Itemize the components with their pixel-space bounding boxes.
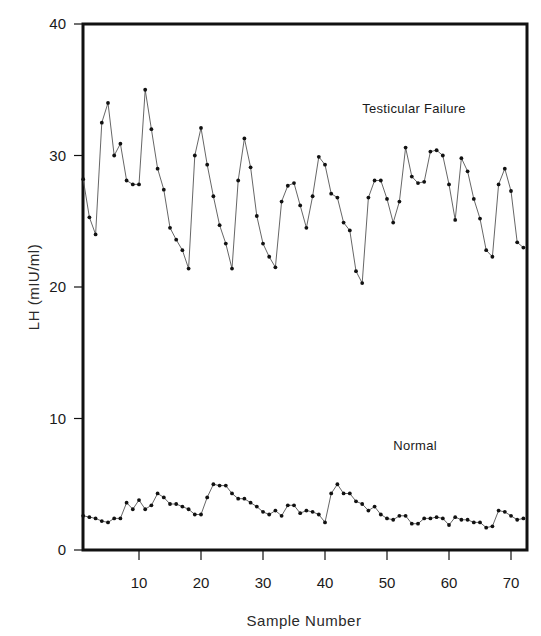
data-point — [410, 522, 414, 526]
data-point — [453, 515, 457, 519]
data-point — [317, 513, 321, 517]
data-point — [187, 507, 191, 511]
series-layer — [81, 88, 525, 530]
series-label-normal: Normal — [393, 438, 437, 453]
data-point — [398, 200, 402, 204]
data-point — [379, 179, 383, 183]
y-tick-label: 40 — [49, 15, 66, 32]
data-point — [199, 513, 203, 517]
x-tick-label: 70 — [503, 574, 520, 591]
data-point — [292, 503, 296, 507]
data-point — [416, 522, 420, 526]
data-point — [143, 88, 147, 92]
data-point — [267, 513, 271, 517]
data-point — [243, 137, 247, 141]
data-point — [205, 496, 209, 500]
data-point — [429, 517, 433, 521]
x-tick-label: 10 — [131, 574, 148, 591]
data-point — [162, 496, 166, 500]
data-point — [311, 510, 315, 514]
data-point — [367, 509, 371, 513]
data-point — [323, 520, 327, 524]
data-point — [522, 246, 526, 250]
lh-line-chart: 010203040 10203040506070 Testicular Fail… — [0, 0, 541, 636]
series-testicular-failure — [81, 88, 525, 285]
data-point — [435, 515, 439, 519]
data-point — [286, 184, 290, 188]
data-point — [187, 267, 191, 271]
x-tick-label: 50 — [379, 574, 396, 591]
data-point — [88, 515, 92, 519]
data-point — [311, 194, 315, 198]
data-point — [150, 127, 154, 131]
data-point — [342, 492, 346, 496]
data-point — [249, 165, 253, 169]
data-point — [478, 217, 482, 221]
data-point — [329, 492, 333, 496]
data-point — [212, 194, 216, 198]
data-point — [422, 517, 426, 521]
data-point — [503, 510, 507, 514]
data-point — [255, 214, 259, 218]
data-point — [466, 518, 470, 522]
data-point — [168, 502, 172, 506]
data-point — [497, 183, 501, 187]
data-point — [224, 242, 228, 246]
data-point — [460, 156, 464, 160]
data-point — [422, 180, 426, 184]
data-point — [323, 163, 327, 167]
data-point — [280, 200, 284, 204]
data-point — [181, 505, 185, 509]
data-point — [305, 226, 309, 230]
data-point — [336, 482, 340, 486]
data-point — [106, 520, 110, 524]
data-point — [503, 167, 507, 171]
data-point — [478, 520, 482, 524]
series-label-testicular-failure: Testicular Failure — [362, 101, 466, 116]
data-point — [385, 517, 389, 521]
data-point — [447, 523, 451, 527]
data-point — [292, 181, 296, 185]
data-point — [354, 269, 358, 273]
data-point — [398, 514, 402, 518]
data-point — [484, 248, 488, 252]
data-point — [162, 188, 166, 192]
data-point — [125, 501, 129, 505]
data-point — [280, 514, 284, 518]
data-point — [305, 509, 309, 513]
data-point — [81, 514, 85, 518]
data-point — [404, 514, 408, 518]
y-tick-label: 30 — [49, 147, 66, 164]
data-point — [249, 501, 253, 505]
data-point — [472, 520, 476, 524]
data-point — [112, 517, 116, 521]
data-point — [236, 179, 240, 183]
data-point — [466, 169, 470, 173]
data-point — [168, 226, 172, 230]
data-point — [435, 148, 439, 152]
data-point — [441, 154, 445, 158]
series-line — [83, 484, 523, 527]
data-point — [193, 154, 197, 158]
data-point — [298, 204, 302, 208]
data-point — [354, 499, 358, 503]
data-point — [137, 183, 141, 187]
data-point — [385, 197, 389, 201]
data-point — [391, 221, 395, 225]
data-point — [379, 513, 383, 517]
data-point — [348, 492, 352, 496]
data-point — [125, 179, 129, 183]
data-point — [373, 505, 377, 509]
data-point — [497, 509, 501, 513]
data-point — [453, 218, 457, 222]
data-point — [447, 183, 451, 187]
data-point — [329, 192, 333, 196]
data-point — [274, 509, 278, 513]
x-tick-label: 60 — [441, 574, 458, 591]
data-point — [81, 177, 85, 181]
data-point — [515, 240, 519, 244]
data-point — [491, 524, 495, 528]
y-tick-label: 0 — [58, 541, 66, 558]
data-point — [298, 511, 302, 515]
data-point — [156, 167, 160, 171]
